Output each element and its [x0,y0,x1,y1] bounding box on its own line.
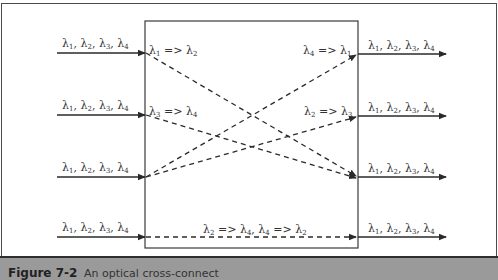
output-label-1: λ1, λ2, λ3, λ4 [368,40,435,53]
input-label-2: λ1, λ2, λ3, λ4 [62,100,129,113]
figure-caption: An optical cross-connect [84,267,219,280]
conversion-label-in2: λ3 => λ4 [149,106,197,119]
input-label-3: λ1, λ2, λ3, λ4 [62,162,129,175]
conversion-label-out1: λ4 => λ1 [303,45,351,58]
path-in3-out2 [146,117,356,177]
conversion-label-in1: λ1 => λ2 [149,45,197,58]
conversion-label-bottom: λ2 => λ4, λ4 => λ2 [203,224,307,237]
output-label-3: λ1, λ2, λ3, λ4 [368,163,435,176]
output-label-4: λ1, λ2, λ3, λ4 [368,223,435,236]
figure-number: Figure 7-2 [8,266,77,280]
input-label-1: λ1, λ2, λ3, λ4 [62,38,129,51]
output-label-2: λ1, λ2, λ3, λ4 [368,102,435,115]
figure-caption-bar: Figure 7-2 An optical cross-connect [0,256,498,280]
input-label-4: λ1, λ2, λ3, λ4 [62,222,129,235]
conversion-label-out2: λ2 => λ3 [304,106,352,119]
